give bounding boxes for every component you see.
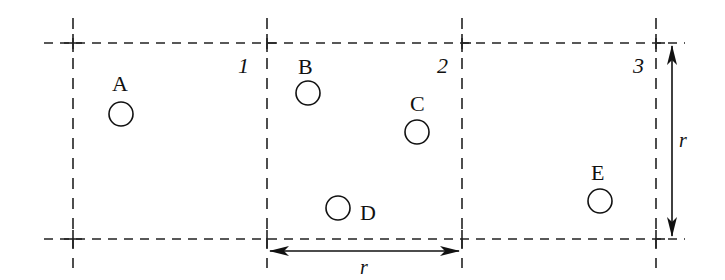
- dimension-label-vertical: r: [679, 129, 687, 151]
- cell-label-3: 3: [632, 53, 644, 78]
- point-E: E: [588, 160, 612, 213]
- point-label: A: [112, 71, 128, 96]
- point-circle: [109, 102, 133, 126]
- cell-label-1: 1: [238, 53, 249, 78]
- horizontal-dimension: r: [270, 251, 459, 278]
- vertical-grid-lines: [73, 18, 656, 268]
- point-label: B: [298, 54, 313, 79]
- point-label: E: [591, 160, 604, 185]
- point-label: D: [360, 200, 376, 225]
- point-C: C: [405, 91, 429, 144]
- point-B: B: [296, 54, 320, 105]
- vertical-dimension: r: [672, 46, 687, 236]
- point-A: A: [109, 71, 133, 126]
- grid-diagram: 1 2 3 A B C D E r r: [0, 0, 725, 280]
- dimension-label-horizontal: r: [360, 256, 368, 278]
- point-circle: [326, 196, 350, 220]
- point-circle: [588, 189, 612, 213]
- point-label: C: [410, 91, 425, 116]
- point-circle: [405, 120, 429, 144]
- cell-label-2: 2: [437, 53, 448, 78]
- point-D: D: [326, 196, 376, 225]
- point-circle: [296, 81, 320, 105]
